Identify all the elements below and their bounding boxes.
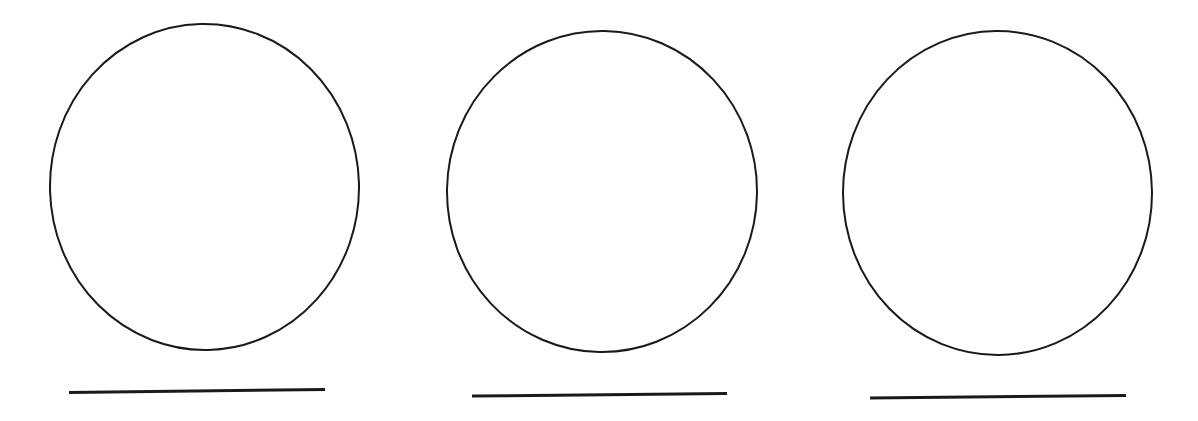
drawing-canvas — [0, 0, 1198, 421]
figure-svg — [0, 0, 1198, 421]
canvas-background — [0, 0, 1198, 421]
